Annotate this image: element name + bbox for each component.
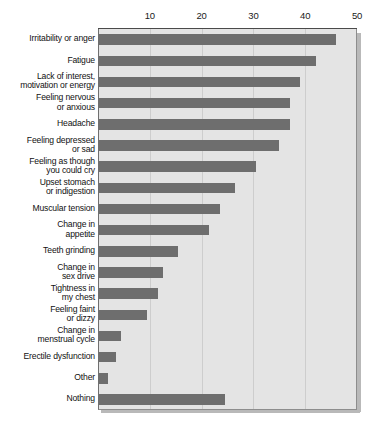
horizontal-bar-chart: 1020304050 Irritability or angerFatigueL… [0, 0, 379, 422]
x-tick-label: 40 [300, 10, 310, 21]
bar [98, 288, 158, 299]
bar-category-label: Other [0, 373, 95, 382]
bar [98, 161, 256, 172]
bar [98, 225, 209, 236]
x-axis: 1020304050 [98, 10, 357, 29]
bar [98, 331, 121, 342]
bar-category-label: Feeling nervous or anxious [0, 93, 95, 112]
bar-category-label: Lack of interest, motivation or energy [0, 72, 95, 91]
x-tick-label: 20 [197, 10, 207, 21]
bar-category-label: Erectile dysfunction [0, 352, 95, 361]
bar-category-label: Tightness in my chest [0, 284, 95, 303]
bar-category-label: Teeth grinding [0, 246, 95, 255]
bar-rows: Irritability or angerFatigueLack of inte… [0, 29, 379, 410]
bar-category-label: Muscular tension [0, 204, 95, 213]
bar [98, 34, 336, 45]
bar-category-label: Nothing [0, 394, 95, 403]
x-tick-label: 50 [352, 10, 362, 21]
bar-category-label: Headache [0, 119, 95, 128]
x-tick-label: 30 [248, 10, 258, 21]
bar [98, 246, 178, 257]
bar-category-label: Fatigue [0, 56, 95, 65]
bar-category-label: Change in sex drive [0, 263, 95, 282]
bar-category-label: Change in appetite [0, 220, 95, 239]
bar [98, 373, 108, 384]
x-tick-label: 10 [145, 10, 155, 21]
bar [98, 204, 220, 215]
bar [98, 77, 300, 88]
bar [98, 119, 290, 130]
bar-category-label: Feeling depressed or sad [0, 136, 95, 155]
bar [98, 183, 235, 194]
bar [98, 352, 116, 363]
bar-category-label: Change in menstrual cycle [0, 326, 95, 345]
bar-category-label: Irritability or anger [0, 34, 95, 43]
bar [98, 267, 163, 278]
bar [98, 310, 147, 321]
bar-category-label: Upset stomach or indigestion [0, 178, 95, 197]
bar [98, 56, 316, 67]
bar [98, 98, 290, 109]
bar-category-label: Feeling as though you could cry [0, 157, 95, 176]
bar-category-label: Feeling faint or dizzy [0, 305, 95, 324]
bar [98, 394, 225, 405]
bar [98, 140, 279, 151]
